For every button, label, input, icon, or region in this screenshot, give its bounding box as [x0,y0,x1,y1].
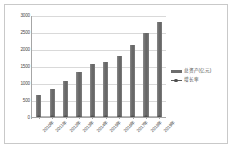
bar-slot [99,16,112,117]
bar-slot [45,16,58,117]
bar[interactable] [130,45,135,117]
x-tick-label: 2019年 [164,120,178,134]
bar-slot [72,16,85,117]
bar-slot [126,16,139,117]
y-tick-label: 1500 [20,65,30,70]
bar[interactable] [36,95,41,117]
y-tick-label: 2500 [20,31,30,36]
x-axis-labels: 2010年2011年2012年2013年2014年2015年2016年2017年… [31,119,166,148]
bar[interactable] [143,33,148,117]
x-label-slot: 2016年 [112,119,126,148]
legend-label-total-assets: 总资产(亿元) [184,69,211,74]
chart-screenshot: 050010001500200025003000 2010年2011年2012年… [0,0,232,148]
y-tick-label: 1000 [20,82,30,87]
y-tick-label: 3000 [20,14,30,19]
bar[interactable] [90,64,95,117]
bar[interactable] [76,72,81,117]
bar-slot [153,16,166,117]
legend-label-growth-rate: 增长率 [184,78,199,83]
legend-item-growth-rate: 增长率 [171,76,229,85]
bar-slot [112,16,125,117]
x-label-slot: 2019年 [153,119,167,148]
x-label-slot: 2011年 [45,119,59,148]
plot-area: 050010001500200025003000 [31,16,166,118]
bar[interactable] [50,89,55,117]
bar[interactable] [63,81,68,117]
x-label-slot: 2013年 [72,119,86,148]
line-marker-icon [171,79,182,82]
bar-slot [139,16,152,117]
y-tick-label: 0 [28,116,30,121]
bar-slot [86,16,99,117]
bar-swatch-icon [171,70,182,73]
chart-legend: 总资产(亿元) 增长率 [171,67,229,85]
legend-item-total-assets: 总资产(亿元) [171,67,229,76]
x-label-slot: 2014年 [85,119,99,148]
x-label-slot: 2018年 [139,119,153,148]
bar[interactable] [157,22,162,117]
chart-frame: 050010001500200025003000 2010年2011年2012年… [4,4,228,144]
y-tick-label: 2000 [20,48,30,53]
bar-series-total-assets [32,16,166,117]
bar-slot [32,16,45,117]
x-label-slot: 2010年 [31,119,45,148]
bar[interactable] [117,56,122,117]
y-tick-label: 500 [23,99,30,104]
x-label-slot: 2015年 [99,119,113,148]
bar-slot [59,16,72,117]
x-label-slot: 2012年 [58,119,72,148]
x-label-slot: 2017年 [126,119,140,148]
bar[interactable] [103,62,108,117]
